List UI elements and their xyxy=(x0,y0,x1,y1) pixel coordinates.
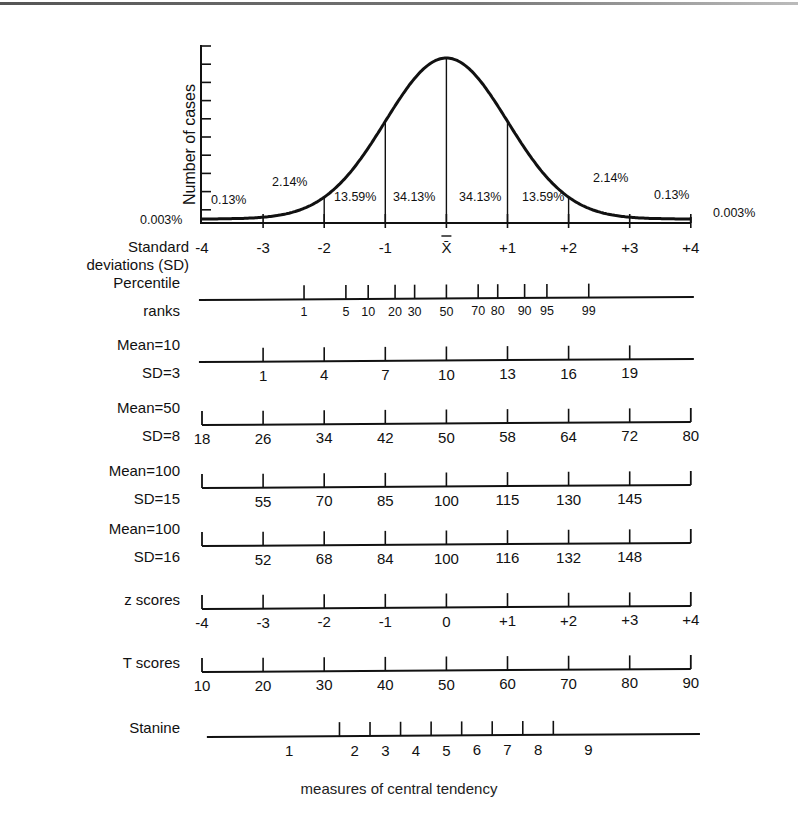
scale-value: 72 xyxy=(621,427,638,444)
area-percentage-label: 0.003% xyxy=(713,206,755,220)
scale-value: 145 xyxy=(617,490,642,507)
scale-value: 10 xyxy=(194,677,211,694)
sd-tick-label: X̄ xyxy=(441,239,451,256)
sd-tick-label: -4 xyxy=(195,239,208,256)
scale-value: 68 xyxy=(316,550,333,567)
scale-value: 95 xyxy=(540,304,554,318)
scale-line xyxy=(207,734,700,737)
sd-tick-label: -1 xyxy=(379,239,392,256)
sd-tick-label: +2 xyxy=(560,239,577,256)
scale-value: 84 xyxy=(377,550,394,567)
scale-value: 34 xyxy=(316,429,333,446)
scale-value: 55 xyxy=(255,493,272,510)
area-percentage-label: 0.13% xyxy=(211,193,246,207)
row-label: SD=8 xyxy=(142,427,180,444)
normal-curve-diagram: Number of cases0.003%0.13%2.14%13.59%34.… xyxy=(0,0,798,831)
scale-value: 80 xyxy=(621,674,638,691)
scale-value: 70 xyxy=(560,675,577,692)
scale-value: 70 xyxy=(471,304,485,318)
scale-value: 40 xyxy=(377,676,394,693)
area-percentage-label: 34.13% xyxy=(459,190,501,204)
scale-value: 20 xyxy=(255,677,272,694)
scale-value: 30 xyxy=(408,305,422,319)
row-label: Mean=100 xyxy=(109,520,180,537)
area-percentage-label: 13.59% xyxy=(522,190,564,204)
scale-value: 80 xyxy=(682,427,699,444)
scale-value: 16 xyxy=(560,365,577,382)
scale-value: 1 xyxy=(285,742,293,759)
scale-value: 99 xyxy=(582,304,596,318)
scale-value: 0 xyxy=(442,613,450,630)
scale-value: 115 xyxy=(496,491,520,508)
scale-value: 52 xyxy=(255,551,272,568)
row-label: Percentile xyxy=(113,274,180,291)
scale-value: 13 xyxy=(499,365,516,382)
scale-value: 50 xyxy=(438,676,455,693)
scale-value: 20 xyxy=(388,305,402,319)
scale-value: 64 xyxy=(560,428,577,445)
scale-value: 7 xyxy=(381,366,389,383)
scale-value: 116 xyxy=(496,549,520,566)
scale-value: 85 xyxy=(377,492,394,509)
scale-value: 19 xyxy=(621,364,638,381)
scale-value: 3 xyxy=(381,742,389,759)
sd-tick-label: +3 xyxy=(621,239,638,256)
scale-value: +3 xyxy=(621,611,638,628)
sd-tick-label: +4 xyxy=(682,239,699,256)
scale-value: 100 xyxy=(434,550,459,567)
area-percentage-label: 2.14% xyxy=(593,171,628,185)
scale-value: 58 xyxy=(499,428,516,445)
scale-value: +2 xyxy=(560,612,577,629)
row-label: Stanine xyxy=(129,719,180,736)
scale-value: 7 xyxy=(503,741,511,758)
scale-value: 2 xyxy=(351,742,359,759)
scale-value: 9 xyxy=(584,741,592,758)
scale-value: 4 xyxy=(320,366,328,383)
row-label: T scores xyxy=(123,654,180,671)
scale-value: 18 xyxy=(194,430,211,447)
scale-value: -4 xyxy=(195,614,208,631)
row-label: deviations (SD) xyxy=(86,256,189,273)
scale-value: 1 xyxy=(259,367,267,384)
scale-value: 100 xyxy=(434,492,459,509)
scale-value: 90 xyxy=(682,674,699,691)
y-axis-label: Number of cases xyxy=(181,84,198,205)
scale-value: -3 xyxy=(256,614,269,631)
row-label: z scores xyxy=(124,591,180,608)
scale-value: 5 xyxy=(442,742,450,759)
row-label: Mean=10 xyxy=(117,336,180,353)
scale-value: 60 xyxy=(499,675,516,692)
scale-value: +4 xyxy=(682,611,699,628)
area-percentage-label: 13.59% xyxy=(334,190,376,204)
scale-value: 5 xyxy=(342,305,349,319)
scale-value: 70 xyxy=(316,492,333,509)
scale-value: 10 xyxy=(438,366,455,383)
scale-value: -2 xyxy=(318,613,331,630)
sd-tick-label: -2 xyxy=(318,239,331,256)
scale-value: 42 xyxy=(377,429,394,446)
scale-value: 6 xyxy=(473,741,481,758)
scale-value: 80 xyxy=(491,304,505,318)
scale-value: 50 xyxy=(439,305,453,319)
scale-value: 10 xyxy=(361,305,375,319)
scale-value: 8 xyxy=(534,741,542,758)
row-label: Mean=100 xyxy=(109,462,180,479)
scale-value: +1 xyxy=(499,612,516,629)
row-label: Mean=50 xyxy=(117,399,180,416)
row-label: SD=15 xyxy=(134,490,180,507)
scale-value: 4 xyxy=(412,742,420,759)
row-label: SD=3 xyxy=(142,364,180,381)
scale-value: 26 xyxy=(255,430,272,447)
area-percentage-label: 34.13% xyxy=(393,190,435,204)
scale-value: 30 xyxy=(316,676,333,693)
row-label: ranks xyxy=(143,302,180,319)
scale-value: 132 xyxy=(556,549,581,566)
sd-tick-label: -3 xyxy=(256,239,269,256)
sd-tick-label: +1 xyxy=(499,239,516,256)
scale-value: 1 xyxy=(301,305,308,319)
scale-value: -1 xyxy=(379,613,392,630)
scale-value: 130 xyxy=(556,491,581,508)
scale-value: 90 xyxy=(518,304,532,318)
row-label: SD=16 xyxy=(134,548,180,565)
scale-value: 148 xyxy=(617,548,642,565)
